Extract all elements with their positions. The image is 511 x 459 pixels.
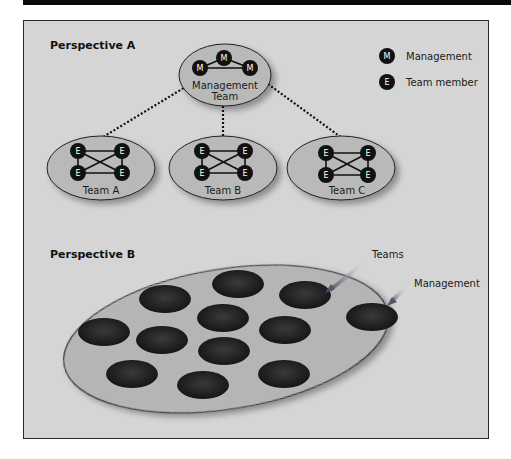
team-member-node: E xyxy=(194,143,210,159)
svg-text:M: M xyxy=(384,52,391,61)
team-c-group: E E E E Team C xyxy=(287,136,395,200)
svg-text:Management: Management xyxy=(414,278,480,289)
team-member-node: E xyxy=(318,167,334,183)
management-team-label-line2: Team xyxy=(211,91,238,102)
team-oval xyxy=(212,270,264,298)
team-oval xyxy=(197,304,249,332)
management-team-label-line1: Management xyxy=(192,80,258,91)
team-member-node: E xyxy=(70,165,86,181)
management-node: M xyxy=(242,60,258,76)
team-oval xyxy=(106,360,158,388)
svg-text:E: E xyxy=(323,149,328,158)
team-oval xyxy=(177,371,229,399)
svg-text:E: E xyxy=(242,147,247,156)
svg-text:E: E xyxy=(365,171,370,180)
svg-text:E: E xyxy=(365,149,370,158)
svg-text:E: E xyxy=(199,169,204,178)
management-team-group: M M M Management Team xyxy=(179,44,271,106)
team-oval xyxy=(198,337,250,365)
team-member-node: E xyxy=(318,145,334,161)
svg-text:Team member: Team member xyxy=(405,77,479,88)
legend-item-team-member: E Team member xyxy=(379,74,479,90)
team-member-node: E xyxy=(114,143,130,159)
team-c-label: Team C xyxy=(328,185,366,196)
team-b-label: Team B xyxy=(204,185,242,196)
svg-text:E: E xyxy=(119,147,124,156)
team-member-node: E xyxy=(70,143,86,159)
team-oval xyxy=(279,281,331,309)
team-member-node: E xyxy=(114,165,130,181)
team-member-node: E xyxy=(237,165,253,181)
svg-text:E: E xyxy=(119,169,124,178)
svg-text:Teams: Teams xyxy=(371,249,404,260)
organization-diagram: Perspective A M M M Management Team xyxy=(0,0,511,459)
svg-text:Management: Management xyxy=(406,51,472,62)
team-member-node: E xyxy=(360,167,376,183)
management-callout: Management xyxy=(387,278,480,306)
team-oval xyxy=(139,285,191,313)
svg-text:M: M xyxy=(197,64,204,73)
team-member-node: E xyxy=(237,143,253,159)
svg-text:E: E xyxy=(75,169,80,178)
team-oval xyxy=(259,316,311,344)
team-oval xyxy=(258,360,310,388)
team-a-group: E E E E Team A xyxy=(47,136,155,200)
svg-text:E: E xyxy=(199,147,204,156)
management-node: M xyxy=(216,50,232,66)
team-oval xyxy=(346,303,398,331)
legend: M Management E Team member xyxy=(379,48,479,90)
svg-text:E: E xyxy=(384,78,389,87)
team-a-label: Team A xyxy=(82,185,120,196)
perspective-a-title: Perspective A xyxy=(50,39,136,52)
organization-ellipse-group xyxy=(53,244,399,434)
team-oval xyxy=(78,318,130,346)
svg-text:E: E xyxy=(75,147,80,156)
svg-text:M: M xyxy=(221,54,228,63)
perspective-b-title: Perspective B xyxy=(50,248,135,261)
svg-text:E: E xyxy=(242,169,247,178)
team-oval xyxy=(136,326,188,354)
team-b-group: E E E E Team B xyxy=(169,136,277,200)
team-member-node: E xyxy=(194,165,210,181)
management-node: M xyxy=(192,60,208,76)
svg-text:M: M xyxy=(247,64,254,73)
legend-item-management: M Management xyxy=(379,48,472,64)
svg-text:E: E xyxy=(323,171,328,180)
team-member-node: E xyxy=(360,145,376,161)
